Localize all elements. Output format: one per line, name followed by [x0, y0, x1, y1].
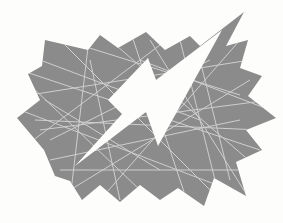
starburst-illustration — [0, 0, 283, 223]
